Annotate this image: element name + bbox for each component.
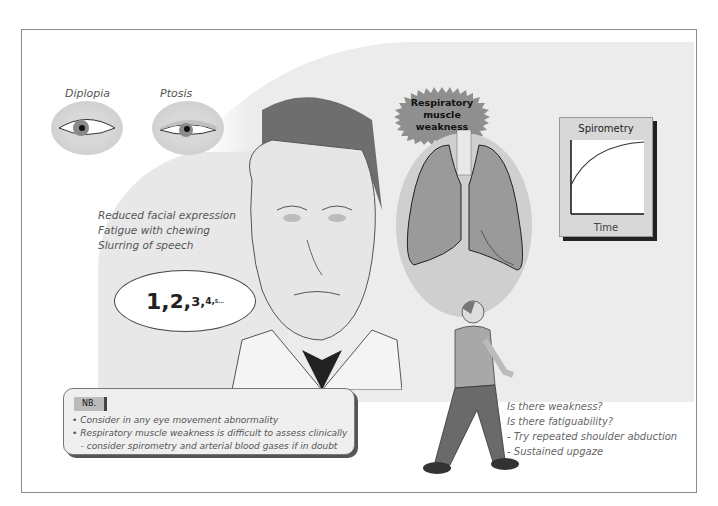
nb-line: • Respiratory muscle weakness is difficu…	[72, 427, 347, 440]
question: - Try repeated shoulder abduction	[507, 429, 677, 444]
nb-note-box: NB. • Consider in any eye movement abnor…	[63, 388, 355, 455]
count-1: 1,	[146, 289, 170, 314]
nb-line: • Consider in any eye movement abnormali…	[72, 414, 347, 427]
respiratory-label-line1: Respiratory muscle	[392, 97, 492, 121]
speech-bubble: 1, 2, 3, 4, 5...	[114, 270, 256, 332]
face-features-list: Reduced facial expression Fatigue with c…	[98, 208, 236, 253]
ptosis-eye-icon	[152, 101, 224, 155]
nb-line: - consider spirometry and arterial blood…	[72, 440, 347, 453]
face-feature: Fatigue with chewing	[98, 223, 236, 238]
spirometry-curve	[570, 140, 644, 215]
question: Is there weakness?	[507, 399, 677, 414]
diplopia-eye-icon	[51, 101, 123, 155]
diplopia-label: Diplopia	[65, 87, 110, 100]
ptosis-label: Ptosis	[160, 87, 192, 100]
count-5: 5...	[215, 298, 224, 304]
spirometry-title: Spirometry	[560, 123, 652, 134]
count-2: 2,	[170, 289, 192, 313]
patient-face-illustration	[222, 90, 402, 390]
face-feature: Reduced facial expression	[98, 208, 236, 223]
spirometry-chart: Spirometry Time	[559, 117, 653, 237]
count-4: 4,	[205, 296, 215, 306]
assessment-questions: Is there weakness? Is there fatiguabilit…	[507, 399, 677, 459]
figure-frame: Diplopia Ptosis Reduced facial expressio…	[21, 29, 697, 493]
nb-tag: NB.	[74, 397, 107, 411]
question: Is there fatiguability?	[507, 414, 677, 429]
lungs-illustration	[389, 130, 539, 320]
count-3: 3,	[191, 294, 205, 309]
spirometry-x-label: Time	[560, 222, 652, 233]
question: - Sustained upgaze	[507, 444, 677, 459]
face-feature: Slurring of speech	[98, 238, 236, 253]
